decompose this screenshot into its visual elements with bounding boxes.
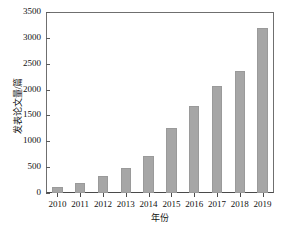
bar [257,28,267,193]
x-tick-mark [240,193,241,197]
x-tick-label: 2015 [160,199,183,209]
x-tick-label: 2018 [228,199,251,209]
x-tick-mark [217,193,218,197]
x-tick-label: 2010 [46,199,69,209]
y-tick-label: 500 [0,162,41,171]
bar [166,128,176,193]
bar [143,156,153,193]
y-axis-title: 发表论文量/篇 [13,36,23,176]
x-tick-label: 2014 [137,199,160,209]
x-axis-title: 年份 [46,213,274,223]
bar [75,183,85,193]
x-tick-label: 2013 [114,199,137,209]
y-tick-label: 3000 [0,33,41,42]
bar [98,176,108,193]
y-tick-label: 1500 [0,110,41,119]
y-tick-mark [46,193,50,194]
x-tick-mark [194,193,195,197]
y-tick-label: 3500 [0,7,41,16]
bar [235,71,245,193]
x-tick-label: 2016 [183,199,206,209]
x-tick-label: 2011 [69,199,92,209]
y-tick-mark [46,38,50,39]
bar-chart: 发表论文量/篇 0500100015002000250030003500 201… [0,0,283,232]
x-tick-mark [126,193,127,197]
bar [212,86,222,193]
y-tick-label: 0 [0,188,41,197]
x-tick-mark [263,193,264,197]
y-tick-mark [46,115,50,116]
bar [121,168,131,193]
x-tick-label: 2012 [92,199,115,209]
y-tick-label: 2500 [0,59,41,68]
x-tick-label: 2019 [251,199,274,209]
x-tick-mark [149,193,150,197]
y-tick-mark [46,64,50,65]
y-tick-mark [46,141,50,142]
x-tick-mark [103,193,104,197]
y-tick-mark [46,12,50,13]
x-tick-mark [80,193,81,197]
x-tick-mark [57,193,58,197]
y-tick-label: 1000 [0,136,41,145]
y-tick-label: 2000 [0,85,41,94]
x-tick-label: 2017 [206,199,229,209]
y-tick-mark [46,167,50,168]
y-tick-mark [46,90,50,91]
x-tick-mark [171,193,172,197]
bar [189,106,199,193]
